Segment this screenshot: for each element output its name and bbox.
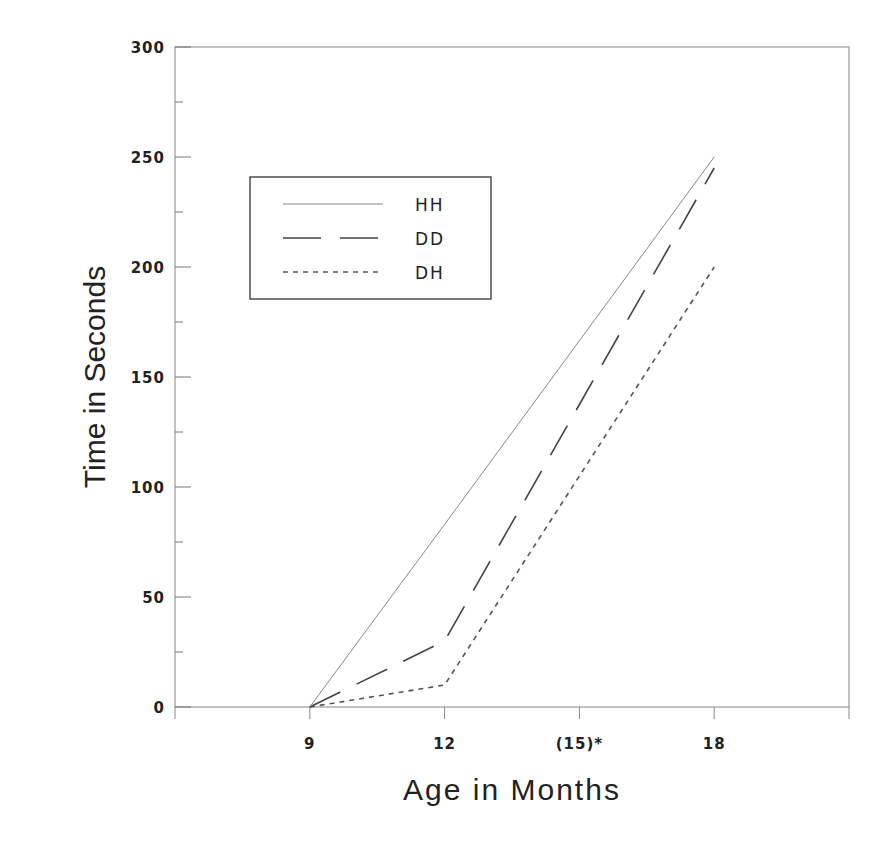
y-tick-label: 250 — [131, 149, 165, 167]
legend-label-dh: DH — [415, 263, 445, 283]
x-axis-ticks: 912(15)*18 — [175, 707, 849, 753]
y-axis-ticks: 050100150200250300 — [131, 39, 191, 717]
y-tick-label: 200 — [131, 259, 165, 277]
y-tick-label: 300 — [131, 39, 165, 57]
x-axis-title: Age in Months — [403, 773, 621, 806]
y-tick-label: 150 — [131, 369, 165, 387]
series-dh-line — [310, 267, 714, 707]
y-axis-title: Time in Seconds — [78, 266, 111, 488]
legend-label-dd: DD — [415, 229, 445, 249]
x-tick-label: 12 — [433, 735, 456, 753]
x-tick-label: 9 — [304, 735, 315, 753]
x-tick-label: 18 — [703, 735, 726, 753]
line-chart: 050100150200250300 912(15)*18 HHDDDH Age… — [0, 0, 890, 852]
plot-frame — [175, 47, 849, 707]
y-tick-label: 50 — [142, 589, 165, 607]
legend: HHDDDH — [250, 177, 491, 299]
y-tick-label: 100 — [131, 479, 165, 497]
y-tick-label: 0 — [154, 699, 165, 717]
legend-label-hh: HH — [415, 195, 445, 215]
x-tick-label: (15)* — [556, 735, 603, 753]
